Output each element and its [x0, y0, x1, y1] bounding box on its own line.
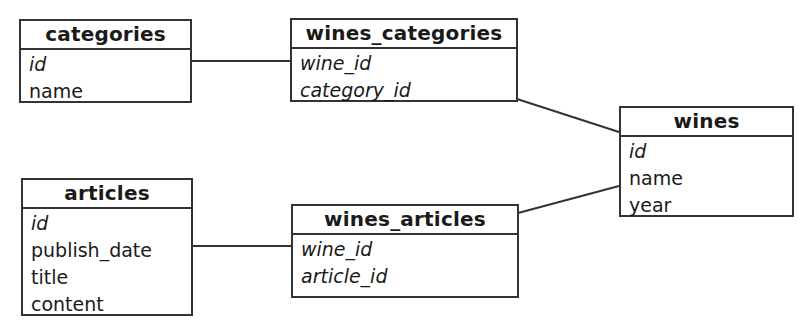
field-name: name	[629, 165, 792, 192]
field-name: name	[29, 78, 190, 105]
entity-title: wines	[621, 108, 792, 137]
entity-wines[interactable]: wines id name year	[619, 106, 794, 217]
entity-title: categories	[21, 21, 190, 50]
entity-title: wines_articles	[293, 206, 517, 235]
entity-categories[interactable]: categories id name	[19, 19, 192, 103]
field-id: id	[31, 210, 191, 237]
field-year: year	[629, 192, 792, 219]
entity-title: articles	[23, 180, 191, 209]
field-content: content	[31, 291, 191, 318]
field-article-id: article_id	[301, 263, 517, 290]
link-wines-categories-wines	[517, 99, 619, 132]
field-title: title	[31, 264, 191, 291]
entity-articles[interactable]: articles id publish_date title content	[21, 178, 193, 316]
field-id: id	[629, 138, 792, 165]
link-wines-articles-wines	[518, 186, 619, 213]
field-id: id	[29, 51, 190, 78]
entity-wines-categories[interactable]: wines_categories wine_id category_id	[290, 18, 518, 102]
entity-wines-articles[interactable]: wines_articles wine_id article_id	[291, 204, 519, 298]
field-wine-id: wine_id	[300, 50, 516, 77]
field-category-id: category_id	[300, 77, 516, 104]
entity-title: wines_categories	[292, 20, 516, 49]
field-wine-id: wine_id	[301, 236, 517, 263]
field-publish-date: publish_date	[31, 237, 191, 264]
